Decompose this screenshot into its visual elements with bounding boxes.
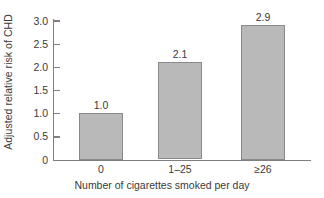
y-axis-title-text: Adjusted relative risk of CHD bbox=[2, 14, 14, 150]
bar-value-label-0: 1.0 bbox=[79, 100, 123, 111]
bar-value-label-26up: 2.9 bbox=[241, 12, 285, 23]
y-tick-3-0 bbox=[54, 20, 60, 21]
y-tick-label-1-0: 1.0 bbox=[8, 108, 48, 119]
bar-category-0[interactable] bbox=[79, 113, 123, 160]
y-tick-2-5 bbox=[54, 44, 60, 45]
y-tick-label-2-5: 2.5 bbox=[8, 39, 48, 50]
bar-category-26up[interactable] bbox=[241, 25, 285, 160]
x-axis-line bbox=[53, 160, 311, 161]
y-tick-label-0-5: 0.5 bbox=[8, 131, 48, 142]
y-tick-label-0: 0 bbox=[8, 155, 48, 166]
y-tick-0-5 bbox=[54, 136, 60, 137]
x-category-label-0: 0 bbox=[79, 164, 123, 175]
x-axis-title: Number of cigarettes smoked per day bbox=[0, 180, 324, 191]
y-tick-label-2-0: 2.0 bbox=[8, 62, 48, 73]
bar-category-1-25[interactable] bbox=[158, 62, 202, 159]
y-tick-label-1-5: 1.5 bbox=[8, 85, 48, 96]
x-category-label-26up: ≥26 bbox=[241, 164, 285, 175]
y-tick-label-3-0: 3.0 bbox=[8, 16, 48, 27]
bar-value-label-1-25: 2.1 bbox=[158, 49, 202, 60]
y-tick-1-5 bbox=[54, 90, 60, 91]
y-tick-1-0 bbox=[54, 113, 60, 114]
bar-chart-figure: Adjusted relative risk of CHD 3.0 2.5 2.… bbox=[0, 0, 324, 198]
x-category-label-1-25: 1–25 bbox=[158, 164, 202, 175]
y-tick-2-0 bbox=[54, 67, 60, 68]
